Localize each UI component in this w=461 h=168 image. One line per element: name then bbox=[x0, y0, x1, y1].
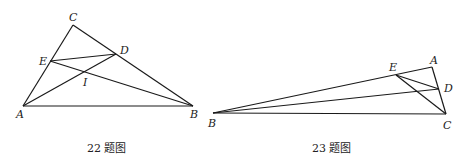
caption-figure-23: 23 题图 bbox=[312, 143, 352, 154]
label-point-C-23: C bbox=[443, 120, 451, 131]
page: C D E I A B 22 题图 A E D C B 23 题图 bbox=[0, 0, 461, 168]
label-point-D-23: D bbox=[444, 83, 453, 94]
segment-BC bbox=[213, 113, 446, 114]
segment-AD bbox=[23, 54, 116, 106]
segment-EC bbox=[396, 75, 446, 114]
label-point-E-23: E bbox=[389, 62, 397, 73]
figures-canvas bbox=[0, 0, 461, 168]
label-point-B-23: B bbox=[208, 118, 216, 129]
caption-figure-22: 22 题图 bbox=[87, 143, 127, 154]
label-point-I-22: I bbox=[83, 77, 87, 88]
figure-23 bbox=[213, 67, 446, 114]
segment-BD bbox=[213, 89, 439, 113]
label-point-B-22: B bbox=[190, 109, 198, 120]
segment-ED bbox=[396, 75, 439, 89]
label-point-C-22: C bbox=[69, 12, 77, 23]
label-point-E-22: E bbox=[39, 56, 47, 67]
label-point-D-22: D bbox=[120, 45, 129, 56]
label-point-A-22: A bbox=[16, 109, 24, 120]
segment-CB bbox=[73, 25, 193, 106]
segment-BA bbox=[213, 67, 432, 113]
segment-EB bbox=[50, 61, 193, 106]
figure-22 bbox=[23, 25, 193, 106]
label-point-A-23: A bbox=[430, 55, 438, 66]
